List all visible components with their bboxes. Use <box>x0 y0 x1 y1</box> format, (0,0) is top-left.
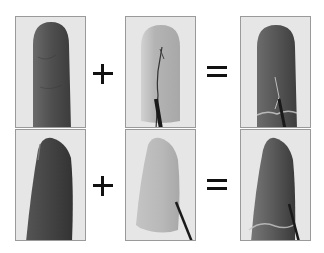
panel-row2-sensor-skin <box>125 129 196 241</box>
panel-row1-bare-finger <box>15 16 86 128</box>
plus-vertical-bar <box>101 64 104 84</box>
plus-vertical-bar <box>101 176 104 196</box>
finger-with-sensor-dorsal-image <box>241 17 311 128</box>
panel-row2-bare-finger <box>15 129 86 241</box>
plus-operator-row2 <box>93 176 113 196</box>
panel-row2-finger-with-sensor <box>240 129 311 241</box>
panel-row1-finger-with-sensor <box>240 16 311 128</box>
equals-top-bar <box>207 179 227 182</box>
finger-lateral-image <box>16 130 86 241</box>
equals-bottom-bar <box>207 74 227 77</box>
finger-dorsal-image <box>16 17 86 128</box>
sensor-skin-lateral-image <box>126 130 196 241</box>
panel-row1-sensor-skin <box>125 16 196 128</box>
plus-operator-row1 <box>93 64 113 84</box>
equals-bottom-bar <box>207 187 227 190</box>
equals-operator-row1 <box>207 64 227 78</box>
finger-with-sensor-lateral-image <box>241 130 311 241</box>
equals-operator-row2 <box>207 177 227 191</box>
equals-top-bar <box>207 66 227 69</box>
sensor-skin-dorsal-image <box>126 17 196 128</box>
